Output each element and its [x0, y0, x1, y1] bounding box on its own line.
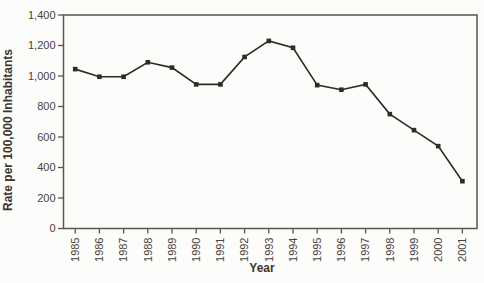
data-point-marker	[388, 112, 393, 117]
x-tick-label: 1990	[190, 238, 202, 262]
chart-figure: 02004006008001,0001,2001,400198519861987…	[0, 0, 484, 283]
x-tick-label: 1998	[384, 238, 396, 262]
x-tick-label: 1985	[69, 238, 81, 262]
x-tick-label: 1986	[93, 238, 105, 262]
x-tick-label: 1993	[263, 238, 275, 262]
x-axis-title: Year	[249, 261, 275, 275]
data-point-marker	[194, 82, 199, 87]
y-tick-label: 1,200	[28, 39, 56, 51]
data-point-marker	[267, 39, 272, 44]
y-tick-label: 1,400	[28, 9, 56, 21]
x-tick-label: 1991	[214, 238, 226, 262]
data-point-marker	[436, 144, 441, 149]
data-point-marker	[170, 65, 175, 70]
data-point-marker	[218, 82, 223, 87]
data-point-marker	[412, 128, 417, 133]
y-tick-label: 200	[37, 192, 55, 204]
x-tick-label: 1988	[142, 238, 154, 262]
x-tick-label: 1999	[408, 238, 420, 262]
data-line	[75, 41, 462, 181]
x-tick-label: 1992	[238, 238, 250, 262]
data-point-marker	[242, 55, 247, 60]
x-tick-label: 2000	[432, 238, 444, 262]
data-point-marker	[315, 83, 320, 88]
x-tick-label: 2001	[456, 238, 468, 262]
x-tick-label: 1997	[359, 238, 371, 262]
data-point-marker	[363, 82, 368, 87]
y-tick-label: 400	[37, 161, 55, 173]
x-tick-label: 1996	[335, 238, 347, 262]
y-tick-label: 600	[37, 131, 55, 143]
x-tick-label: 1995	[311, 238, 323, 262]
data-point-marker	[460, 179, 465, 184]
line-chart: 02004006008001,0001,2001,400198519861987…	[0, 0, 484, 283]
data-point-marker	[339, 87, 344, 92]
y-tick-label: 800	[37, 100, 55, 112]
y-axis-title: Rate per 100,000 Inhabitants	[1, 49, 15, 211]
data-point-marker	[121, 74, 126, 79]
data-point-marker	[146, 60, 151, 65]
data-point-marker	[291, 45, 296, 50]
plot-area: 02004006008001,0001,2001,400198519861987…	[28, 9, 477, 262]
x-tick-label: 1994	[287, 238, 299, 262]
y-tick-label: 1,000	[28, 70, 56, 82]
data-point-marker	[73, 67, 78, 72]
data-point-marker	[97, 74, 102, 79]
x-tick-label: 1989	[166, 238, 178, 262]
plot-frame	[64, 15, 478, 229]
x-tick-label: 1987	[117, 238, 129, 262]
y-tick-label: 0	[49, 222, 55, 234]
